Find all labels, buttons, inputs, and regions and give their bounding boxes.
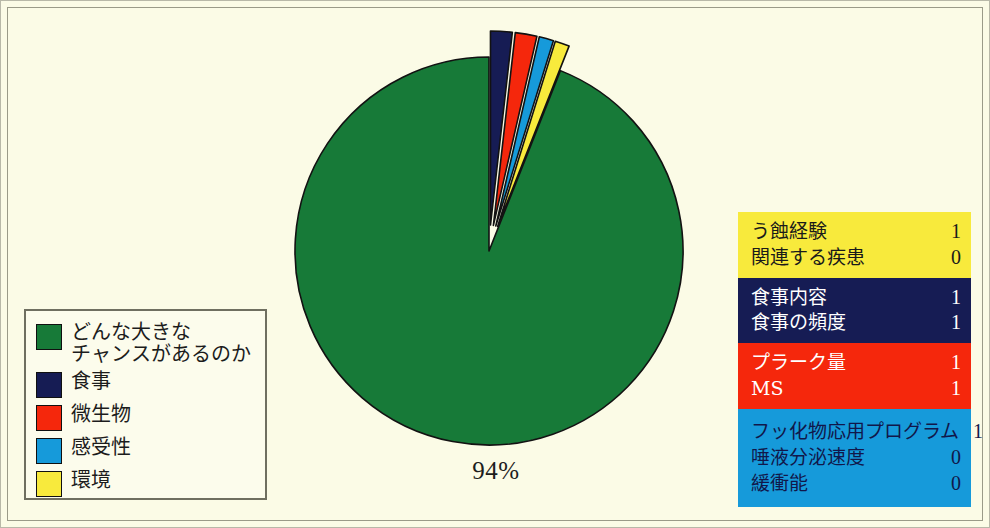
risk-row: 緩衝能0 xyxy=(751,471,961,497)
risk-row: 食事の頻度1 xyxy=(751,310,961,336)
risk-factor-value: 0 xyxy=(937,445,961,471)
risk-factor-name: う蝕経験 xyxy=(751,219,827,243)
legend-rows: どんな大きな チャンスがあるのか食事微生物感受性環境 xyxy=(36,321,257,497)
risk-factor-name: MS xyxy=(751,376,783,400)
risk-factor-name: 食事内容 xyxy=(751,285,827,309)
legend-item-label: 環境 xyxy=(71,469,111,492)
risk-factor-name: 唾液分泌速度 xyxy=(751,445,865,469)
legend-item: 環境 xyxy=(36,469,257,497)
risk-factor-value: 0 xyxy=(937,471,961,497)
risk-factor-value: 1 xyxy=(937,376,961,402)
pie-chart-svg xyxy=(271,9,721,469)
pie-total-label: 94% xyxy=(271,457,721,485)
legend-color-swatch xyxy=(36,405,62,431)
legend-color-swatch xyxy=(36,438,62,464)
risk-group: プラーク量1MS1 xyxy=(738,343,971,409)
risk-factor-name: プラーク量 xyxy=(751,350,846,374)
risk-group: フッ化物応用プログラム1唾液分泌速度0緩衝能0 xyxy=(738,409,971,507)
risk-factor-value: 1 xyxy=(937,219,961,245)
figure-canvas: 94% どんな大きな チャンスがあるのか食事微生物感受性環境 う蝕経験1関連する… xyxy=(0,0,990,528)
legend-item-label: 食事 xyxy=(71,370,111,393)
risk-row: フッ化物応用プログラム1 xyxy=(751,419,961,445)
legend-color-swatch xyxy=(36,324,62,350)
risk-factor-name: 緩衝能 xyxy=(751,471,808,495)
legend-item: 食事 xyxy=(36,370,257,398)
legend-color-swatch xyxy=(36,372,62,398)
risk-factor-value: 1 xyxy=(937,310,961,336)
risk-row: MS1 xyxy=(751,376,961,402)
legend-item: どんな大きな チャンスがあるのか xyxy=(36,321,257,365)
risk-factor-name: 関連する疾患 xyxy=(751,245,865,269)
risk-row: 食事内容1 xyxy=(751,285,961,311)
legend-item: 微生物 xyxy=(36,403,257,431)
pie-slice xyxy=(295,57,683,445)
pie-chart: 94% xyxy=(271,9,721,509)
risk-factor-name: フッ化物応用プログラム xyxy=(751,419,959,443)
risk-factor-value: 1 xyxy=(937,285,961,311)
risk-factor-value: 1 xyxy=(937,350,961,376)
legend-item-label: どんな大きな チャンスがあるのか xyxy=(71,321,251,365)
risk-row: 唾液分泌速度0 xyxy=(751,445,961,471)
pie-slice-group xyxy=(295,31,683,445)
risk-row: う蝕経験1 xyxy=(751,219,961,245)
legend-color-swatch xyxy=(36,471,62,497)
risk-factor-value: 0 xyxy=(937,245,961,271)
legend-item-label: 感受性 xyxy=(71,436,131,459)
risk-factor-value: 1 xyxy=(959,419,983,445)
legend-item-label: 微生物 xyxy=(71,403,131,426)
risk-row: プラーク量1 xyxy=(751,350,961,376)
risk-group: う蝕経験1関連する疾患0 xyxy=(738,212,971,278)
risk-assessment-table: う蝕経験1関連する疾患0食事内容1食事の頻度1プラーク量1MS1フッ化物応用プロ… xyxy=(738,212,971,507)
risk-factor-name: 食事の頻度 xyxy=(751,310,846,334)
chart-legend: どんな大きな チャンスがあるのか食事微生物感受性環境 xyxy=(24,309,267,500)
risk-group: 食事内容1食事の頻度1 xyxy=(738,278,971,344)
legend-item: 感受性 xyxy=(36,436,257,464)
risk-row: 関連する疾患0 xyxy=(751,245,961,271)
